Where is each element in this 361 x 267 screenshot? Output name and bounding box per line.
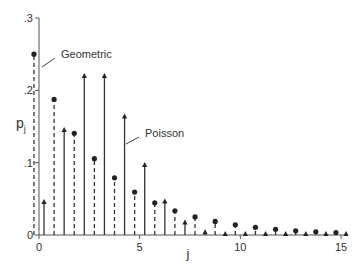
y-axis-label: pj [16, 115, 26, 134]
geometric-point [92, 156, 97, 161]
x-tick-label: 0 [36, 241, 42, 253]
poisson-point [203, 229, 208, 234]
poisson-point [82, 73, 87, 78]
annotation-geometric-label: Geometric [61, 48, 112, 60]
geometric-point [31, 52, 36, 57]
geometric-point [132, 190, 137, 195]
poisson-point [62, 127, 67, 132]
annotation-geometric-leader [42, 58, 55, 67]
y-ticks: 0.1.2.3 [24, 12, 39, 241]
y-tick-label: 0 [27, 229, 33, 241]
geometric-point [293, 228, 298, 233]
x-tick-label: 5 [137, 241, 143, 253]
annotation-poisson-leader [126, 137, 139, 144]
series-poisson [41, 73, 348, 236]
x-tick-label: 15 [335, 241, 347, 253]
x-ticks: 051015 [36, 235, 347, 253]
geometric-point [253, 225, 258, 230]
x-axis-label: j [186, 246, 190, 261]
annotation-poisson: Poisson [126, 127, 184, 144]
poisson-point [323, 231, 328, 236]
annotation-geometric: Geometric [42, 48, 112, 67]
poisson-point [122, 113, 127, 118]
geometric-point [112, 175, 117, 180]
geometric-point [72, 131, 77, 136]
poisson-point [223, 231, 228, 236]
geometric-point [52, 97, 57, 102]
geometric-point [273, 227, 278, 232]
geometric-point [213, 219, 218, 224]
y-tick-label: .1 [24, 157, 33, 169]
poisson-point [142, 162, 147, 167]
poisson-point [283, 231, 288, 236]
poisson-point [41, 199, 46, 204]
stem-chart: 0.1.2.3 051015 pj j Geometric Poisson [0, 0, 361, 267]
y-axis-label-subscript: j [23, 124, 26, 134]
geometric-point [233, 222, 238, 227]
y-axis-label-main: p [16, 115, 24, 131]
poisson-point [263, 231, 268, 236]
poisson-point [243, 231, 248, 236]
series-geometric [31, 52, 338, 236]
geometric-point [172, 208, 177, 213]
annotation-poisson-label: Poisson [145, 127, 184, 139]
poisson-point [102, 73, 107, 78]
geometric-point [192, 214, 197, 219]
y-tick-label: .3 [24, 12, 33, 24]
x-tick-label: 10 [234, 241, 246, 253]
poisson-point [343, 231, 348, 236]
poisson-point [162, 199, 167, 204]
geometric-point [152, 200, 157, 205]
y-tick-label: .2 [24, 84, 33, 96]
geometric-point [333, 230, 338, 235]
geometric-point [313, 229, 318, 234]
poisson-point [303, 231, 308, 236]
poisson-point [182, 219, 187, 224]
